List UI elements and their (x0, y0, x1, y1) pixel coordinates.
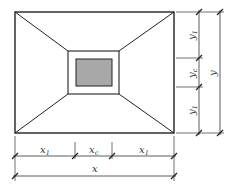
dim-label-y-total: y (207, 70, 218, 77)
slope-line-bottom-left (15, 94, 68, 133)
dim-label-x1-left: x1 (40, 144, 50, 157)
dim-label-yc: yc (186, 68, 199, 79)
foundation-diagram: x1 xc x1 x y1 yc y1 y (0, 0, 234, 190)
dim-label-y1-bottom: y1 (186, 105, 199, 116)
dim-label-xc: xc (89, 144, 99, 157)
bottom-extension-lines (15, 136, 174, 181)
dim-label-x1-right: x1 (139, 144, 149, 157)
dim-label-y1-top: y1 (186, 30, 199, 41)
slope-line-top-right (119, 12, 174, 51)
column-section (76, 59, 112, 86)
dim-label-x-total: x (92, 163, 98, 174)
slope-line-top-left (15, 12, 68, 51)
slope-line-bottom-right (119, 94, 174, 133)
